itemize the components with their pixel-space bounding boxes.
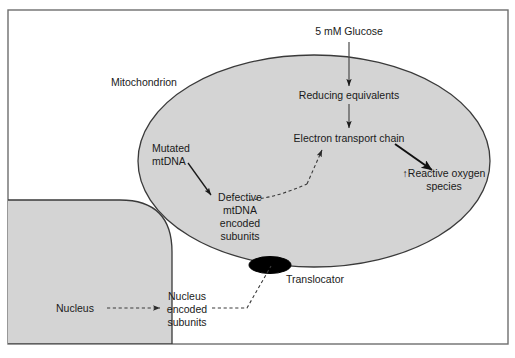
label-reactive-oxygen-species-line2: species: [426, 180, 462, 192]
label-translocator: Translocator: [286, 273, 344, 285]
nucleus-shape: [0, 200, 172, 344]
label-defective-line2: mtDNA: [223, 204, 257, 216]
label-nucleus-encoded-line2: encoded: [167, 303, 207, 315]
label-mutated-mtdna-line2: mtDNA: [152, 155, 186, 167]
label-mitochondrion: Mitochondrion: [111, 76, 177, 88]
label-defective-line1: Defective: [218, 191, 262, 203]
label-nucleus-encoded-line3: subunits: [167, 316, 206, 328]
translocator-ellipse: [249, 257, 291, 274]
label-defective-line3: encoded: [220, 217, 260, 229]
label-defective-line4: subunits: [220, 230, 259, 242]
mitochondrion-ellipse: [138, 55, 490, 267]
label-electron-transport-chain: Electron transport chain: [294, 132, 405, 144]
label-nucleus: Nucleus: [56, 302, 94, 314]
label-reactive-oxygen-species-line1: ↑Reactive oxygen: [403, 167, 486, 179]
label-nucleus-encoded-line1: Nucleus: [168, 290, 206, 302]
diagram-canvas: 5 mM Glucose Mitochondrion Reducing equi…: [0, 0, 515, 358]
label-reducing-equivalents: Reducing equivalents: [299, 89, 399, 101]
label-mutated-mtdna-line1: Mutated: [152, 142, 190, 154]
label-glucose: 5 mM Glucose: [315, 25, 383, 37]
